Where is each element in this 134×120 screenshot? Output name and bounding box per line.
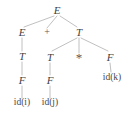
tree-node-right-factor: F [107,52,114,63]
tree-leaf-id-i: id(i) [14,98,30,108]
tree-leaf-id-j: id(j) [42,98,58,108]
parse-tree-figure: E E + T T T * F F F id(k) id(i) id(j) [0,0,134,120]
tree-leaf-id-k: id(k) [103,73,121,83]
tree-node-left-factor: F [19,75,26,86]
tree-node-root-expression: E [54,5,61,16]
tree-node-left-term: T [19,51,25,62]
tree-node-right-term: T [76,27,82,38]
edge-right-T-to-mid-T [52,38,77,51]
tree-node-star-operator: * [76,55,83,62]
tree-node-mid-term: T [47,52,53,63]
edge-root-E-to-right-T [60,16,77,27]
edge-right-T-to-right-F [81,38,108,51]
tree-node-left-expression: E [19,27,26,38]
edge-right-F-to-leaf-k [110,63,111,72]
tree-node-mid-factor: F [47,75,54,86]
tree-node-plus-operator: + [44,27,50,37]
